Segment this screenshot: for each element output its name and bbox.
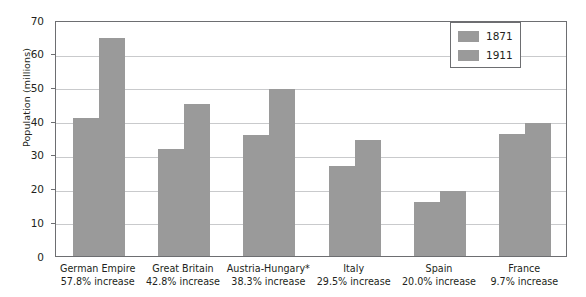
legend-label-1911: 1911 bbox=[486, 50, 513, 61]
y-tick-label-0: 0 bbox=[0, 252, 44, 263]
population-bar-chart: Population (millions) 010203040506070 Ge… bbox=[0, 0, 586, 297]
legend-swatch-1871 bbox=[458, 31, 479, 42]
bar-group-4 bbox=[329, 22, 381, 256]
bar-1911-6 bbox=[525, 123, 551, 257]
bar-1911-4 bbox=[355, 140, 381, 256]
bar-1871-5 bbox=[414, 202, 440, 256]
x-axis-label-6: France9.7% increase bbox=[474, 263, 575, 288]
bar-group-3 bbox=[243, 22, 295, 256]
y-tick-label-20: 20 bbox=[0, 184, 44, 195]
gridline-10 bbox=[56, 224, 566, 225]
y-tick-label-30: 30 bbox=[0, 150, 44, 161]
bar-1871-4 bbox=[329, 166, 355, 256]
y-tick-label-60: 60 bbox=[0, 49, 44, 60]
legend-item-1911: 1911 bbox=[458, 47, 520, 64]
y-tick-label-40: 40 bbox=[0, 117, 44, 128]
bar-1911-3 bbox=[269, 89, 295, 256]
bar-1871-1 bbox=[73, 118, 99, 256]
bar-1911-1 bbox=[99, 38, 125, 256]
legend: 1871 1911 bbox=[450, 22, 521, 68]
gridline-40 bbox=[56, 123, 566, 124]
y-tick-label-50: 50 bbox=[0, 83, 44, 94]
bar-1871-2 bbox=[158, 149, 184, 256]
gridline-20 bbox=[56, 191, 566, 192]
x-axis-category-name-6: France bbox=[474, 263, 575, 276]
bar-1911-5 bbox=[440, 191, 466, 256]
legend-item-1871: 1871 bbox=[458, 28, 520, 45]
legend-swatch-1911 bbox=[458, 50, 479, 61]
x-axis-category-change-6: 9.7% increase bbox=[474, 276, 575, 289]
y-tick-label-10: 10 bbox=[0, 218, 44, 229]
bar-1871-3 bbox=[243, 135, 269, 256]
gridline-50 bbox=[56, 89, 566, 90]
bar-1871-6 bbox=[499, 134, 525, 256]
bar-group-1 bbox=[73, 22, 125, 256]
bar-1911-2 bbox=[184, 104, 210, 256]
y-tick-label-70: 70 bbox=[0, 16, 44, 27]
gridline-30 bbox=[56, 157, 566, 158]
legend-label-1871: 1871 bbox=[486, 31, 513, 42]
bar-group-2 bbox=[158, 22, 210, 256]
